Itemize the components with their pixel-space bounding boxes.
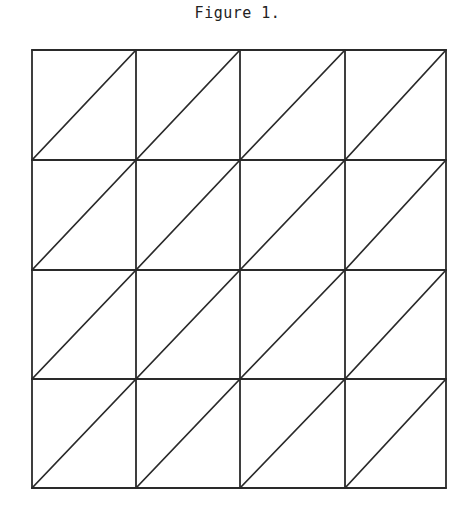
cell-diagonal-line bbox=[136, 50, 240, 160]
cell-diagonal-line bbox=[345, 160, 446, 270]
cell-diagonal-line bbox=[136, 160, 240, 270]
cell-diagonal-line bbox=[345, 379, 446, 488]
triangulated-grid-diagram bbox=[0, 0, 475, 507]
cell-diagonal-line bbox=[240, 379, 345, 488]
cell-diagonal-line bbox=[136, 270, 240, 379]
cell-diagonal-line bbox=[32, 379, 136, 488]
cell-diagonal-line bbox=[32, 50, 136, 160]
cell-diagonal-line bbox=[240, 50, 345, 160]
cell-diagonal-line bbox=[32, 270, 136, 379]
cell-diagonal-line bbox=[345, 270, 446, 379]
cell-diagonal-line bbox=[136, 379, 240, 488]
cell-diagonal-line bbox=[345, 50, 446, 160]
cell-diagonal-line bbox=[240, 160, 345, 270]
cell-diagonal-line bbox=[240, 270, 345, 379]
cell-diagonal-line bbox=[32, 160, 136, 270]
